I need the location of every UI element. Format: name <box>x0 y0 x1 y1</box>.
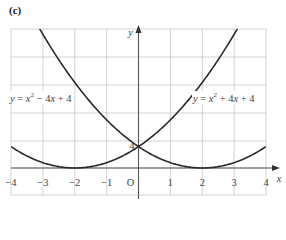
x-tick-label: 1 <box>168 177 173 188</box>
curve-label-right: y = x2 + 4x + 4 <box>192 91 256 104</box>
x-tick-label: 4 <box>263 177 269 188</box>
x-tick-label: −4 <box>5 177 17 188</box>
x-tick-label: 2 <box>200 177 205 188</box>
axes <box>11 25 280 199</box>
y-axis-label: y <box>127 27 133 38</box>
x-tick-label: −3 <box>37 177 48 188</box>
y-tick-label: 4 <box>129 140 135 151</box>
x-tick-label: −1 <box>101 177 112 188</box>
origin-label: O <box>127 177 135 188</box>
curve-label-left: y = x2 − 4x + 4 <box>9 91 73 104</box>
x-axis-arrow-icon <box>272 165 280 171</box>
x-axis-label: x <box>276 173 282 184</box>
x-tick-label: −2 <box>69 177 80 188</box>
x-tick-label: 3 <box>232 177 237 188</box>
